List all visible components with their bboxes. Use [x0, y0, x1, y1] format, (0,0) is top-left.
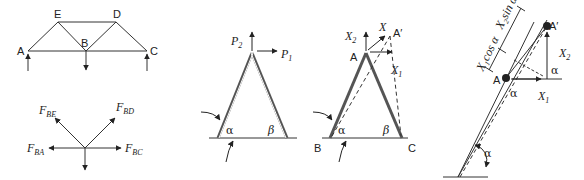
node-label-E: E: [54, 8, 61, 20]
curved-arrow-base: [226, 141, 233, 162]
load-label-P1: P1: [280, 47, 292, 63]
force-arrow-BE: [55, 118, 85, 148]
member-left: [218, 53, 252, 138]
member-BA: [330, 53, 366, 138]
label-A-prime: A′: [549, 20, 558, 32]
angle-label-beta: β: [267, 124, 274, 137]
node-A: [502, 74, 510, 82]
node-label-C: C: [408, 142, 416, 154]
force-label-FBA: FBA: [26, 141, 44, 157]
angle-label-alpha-right: α: [551, 64, 559, 77]
force-label-FBC: FBC: [124, 141, 143, 157]
member-DB: [86, 22, 116, 51]
label-X2-sin-alpha: X₂sin α: [492, 0, 521, 32]
label-X2: X2: [558, 46, 570, 62]
load-label-P2: P2: [230, 34, 242, 50]
node-label-D: D: [113, 8, 121, 20]
node-label-B: B: [81, 37, 88, 49]
node-label-B: B: [314, 142, 321, 154]
curved-arrow-left-member: [313, 112, 332, 120]
label-A: A: [493, 74, 501, 86]
label-X1: X1: [537, 89, 549, 105]
angle-label-beta: β: [382, 124, 389, 137]
dimension-tick-high: [517, 6, 525, 11]
node-label-A: A: [17, 45, 25, 57]
label-X2: X2: [344, 29, 356, 45]
frame-displacement-diagram: [313, 32, 408, 162]
line-A-to-A-prime: [506, 26, 547, 78]
node-label-C: C: [150, 45, 158, 57]
displacement-arrow-X: [368, 36, 385, 50]
angle-label-alpha-base: α: [484, 147, 492, 160]
angle-label-alpha: α: [338, 124, 346, 137]
label-X: X: [378, 20, 387, 34]
structural-analysis-figure: A E D B C FBE FBD FBA FBC P2 P1 α β: [0, 0, 584, 180]
label-A-prime: A′: [393, 27, 402, 39]
member-displaced-dashed: [460, 26, 547, 177]
label-A: A: [350, 51, 358, 63]
label-X1: X1: [390, 63, 402, 79]
force-label-FBE: FBE: [38, 103, 56, 119]
force-label-FBD: FBD: [115, 100, 134, 116]
angle-label-alpha-at-A: α: [510, 87, 518, 100]
free-body-diagram: [49, 118, 121, 170]
curved-arrow-left-member: [201, 112, 220, 120]
member-DC: [116, 22, 147, 51]
force-arrow-BD: [85, 118, 115, 148]
member-AE: [28, 22, 58, 51]
angle-label-alpha: α: [226, 124, 234, 137]
member-left-highlight: [219, 53, 253, 138]
curved-arrow-base: [339, 141, 346, 162]
